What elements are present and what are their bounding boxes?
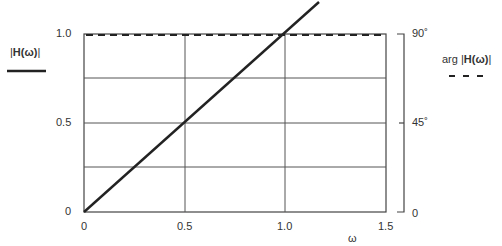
y-right-tick-45: 45˚ (412, 116, 428, 128)
x-tick-1.5: 1.5 (378, 220, 393, 232)
left-legend-label: |H(ω)| (10, 46, 40, 58)
y-left-tick-0: 0 (65, 205, 71, 217)
x-tick-1.0: 1.0 (277, 220, 292, 232)
y-right-tick-90: 90˚ (412, 27, 428, 39)
x-axis-label: ω (348, 232, 357, 244)
y-left-tick-1.0: 1.0 (56, 27, 71, 39)
x-tick-0: 0 (81, 220, 87, 232)
right-legend-label: arg |H(ω)| (442, 53, 491, 65)
y-right-tick-0: 0 (412, 207, 418, 219)
y-left-tick-0.5: 0.5 (56, 116, 71, 128)
x-tick-0.5: 0.5 (177, 220, 192, 232)
